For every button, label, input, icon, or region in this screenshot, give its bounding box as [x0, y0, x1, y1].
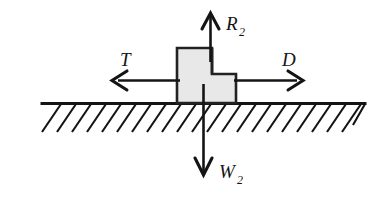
- drag-force-arrow: [234, 71, 303, 90]
- tension-force-label: T: [120, 49, 132, 70]
- drag-force-label: D: [281, 49, 296, 70]
- reaction-force-label-subscript: 2: [239, 25, 245, 39]
- tension-force-arrow: [112, 71, 180, 90]
- weight-force-label: W: [219, 161, 237, 182]
- weight-force-label-subscript: 2: [237, 173, 243, 187]
- free-body-diagram-figure: R 2 T D W 2: [0, 0, 389, 198]
- stepped-block-outline: [177, 48, 236, 103]
- reaction-force-label: R: [225, 13, 238, 34]
- diagram-canvas: R 2 T D W 2: [0, 0, 389, 198]
- stepped-block: [177, 48, 236, 103]
